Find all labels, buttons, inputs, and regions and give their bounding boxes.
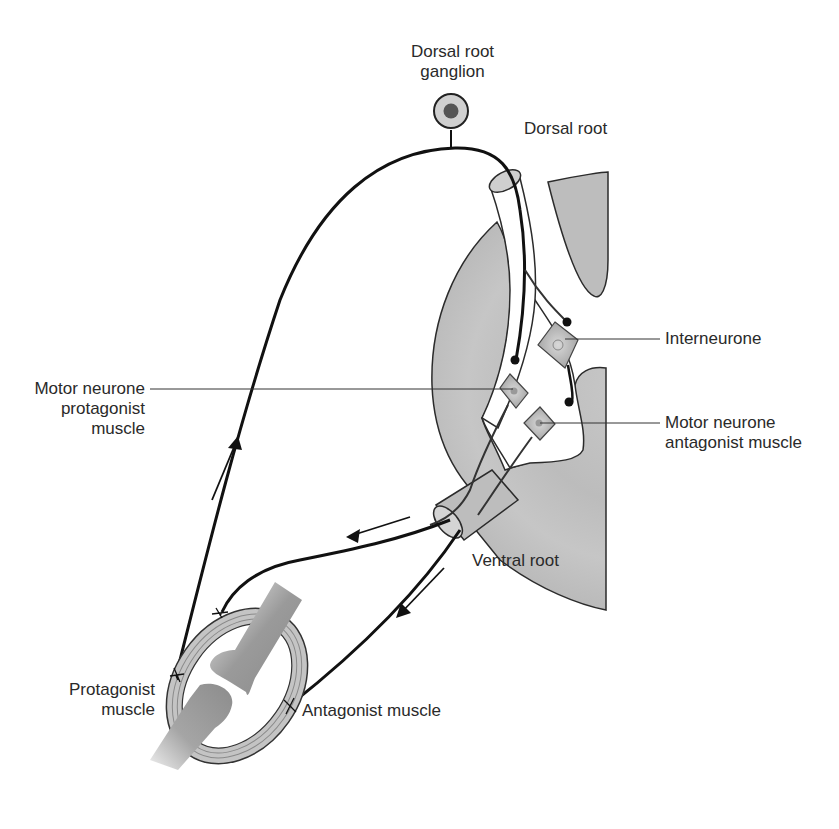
interneurone-label: Interneurone (665, 329, 761, 349)
dorsal-root-ganglion (434, 94, 468, 149)
motor-neurone-antagonist-line1: Motor neurone (665, 413, 802, 433)
motor-neurone-protagonist-label: Motor neurone protagonist muscle (30, 379, 145, 439)
motor-neurone-protagonist-line1: Motor neurone (30, 379, 145, 399)
motor-neurone-antagonist-line2: antagonist muscle (665, 433, 802, 453)
protagonist-muscle-label: Protagonist muscle (50, 680, 155, 720)
efferent-protagonist-arrow (346, 517, 410, 543)
dorsal-root-ganglion-label-line2: ganglion (400, 62, 505, 82)
protagonist-muscle-line1: Protagonist (50, 680, 155, 700)
motor-neurone-protagonist-line3: muscle (30, 419, 145, 439)
motor-neurone-antagonist-label: Motor neurone antagonist muscle (665, 413, 802, 453)
protagonist-muscle-line2: muscle (50, 700, 155, 720)
dorsal-root-ganglion-label: Dorsal root ganglion (400, 42, 505, 82)
antagonist-muscle-label: Antagonist muscle (302, 701, 441, 721)
efferent-antagonist-arrow (396, 568, 444, 618)
ventral-root-label: Ventral root (472, 551, 559, 571)
afferent-arrow (212, 436, 242, 500)
afferent-terminal-dot (511, 356, 520, 365)
dorsal-root-ganglion-label-line1: Dorsal root (400, 42, 505, 62)
motor-neurone-protagonist-line2: protagonist (30, 399, 145, 419)
dorsal-root-label: Dorsal root (524, 119, 607, 139)
afferent-branch-dot (563, 318, 572, 327)
